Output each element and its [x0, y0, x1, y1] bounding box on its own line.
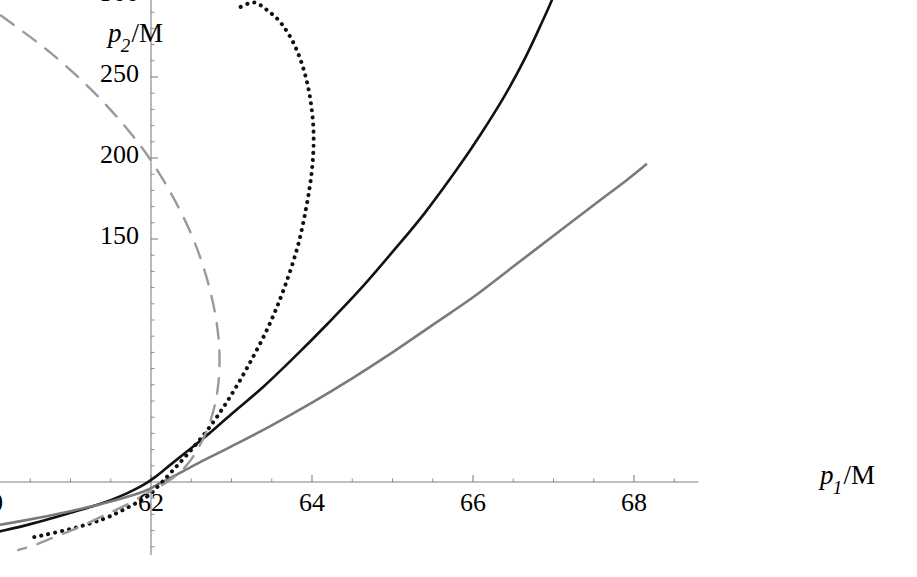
y-axis-label-slash: / — [131, 18, 139, 48]
y-axis-label-var: p — [108, 18, 122, 48]
x-axis-tick-label: 68 — [604, 488, 664, 518]
x-axis-label: p1/M — [820, 460, 875, 495]
y-axis-tick-label: 300 — [73, 0, 139, 8]
x-axis-tick-label: 64 — [282, 488, 342, 518]
x-axis-label-unit: M — [851, 460, 875, 490]
y-axis-tick-label: 250 — [73, 59, 139, 89]
x-axis-tick-label: 60 — [0, 488, 20, 518]
x-axis-label-var: p — [820, 460, 834, 490]
x-axis-label-subscript: 1 — [833, 477, 843, 498]
y-axis-tick-label: 150 — [73, 221, 139, 251]
y-axis-label-subscript: 2 — [121, 35, 131, 56]
x-axis-label-slash: / — [843, 460, 851, 490]
x-axis-tick-label: 66 — [443, 488, 503, 518]
y-axis-label: p2/M — [108, 18, 163, 53]
chart-figure: p2/M p1/M 6062646668150200250300 — [0, 0, 917, 577]
x-axis-tick-label: 62 — [121, 488, 181, 518]
y-axis-tick-label: 200 — [73, 140, 139, 170]
y-axis-label-unit: M — [139, 18, 163, 48]
